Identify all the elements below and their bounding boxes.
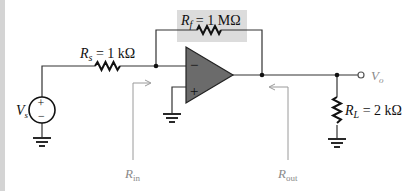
rl-label: RL = 2 kΩ: [344, 103, 402, 120]
rs-label: Rs = 1 kΩ: [79, 46, 135, 63]
rin-arrow-icon: [133, 80, 151, 160]
output-terminal-icon: [358, 72, 364, 78]
ground-source-icon: [33, 138, 51, 146]
vo-label: Vo: [371, 68, 384, 85]
ground-opamp-icon: [163, 114, 181, 122]
circuit-diagram: − + + − Rs = 1 kΩ Rf = 1 MΩ RL = 2 kΩ Vs: [0, 0, 409, 191]
source-plus-sign: +: [38, 96, 45, 110]
load-node-dot: [335, 73, 340, 78]
opamp-noninverting-sign: +: [190, 83, 198, 99]
rs-resistor-icon: [95, 62, 120, 70]
opamp-inverting-sign: −: [190, 57, 198, 73]
source-minus-sign: −: [38, 109, 45, 123]
rout-arrow-icon: [269, 84, 288, 160]
ground-load-icon: [328, 139, 346, 147]
inverting-node-dot: [154, 64, 159, 69]
rf-label: Rf = 1 MΩ: [180, 13, 241, 30]
rl-resistor-icon: [333, 97, 341, 123]
vs-label: Vs: [16, 103, 29, 120]
output-node-dot: [260, 73, 265, 78]
rout-label: Rout: [277, 166, 298, 183]
rin-label: Rin: [124, 166, 140, 183]
